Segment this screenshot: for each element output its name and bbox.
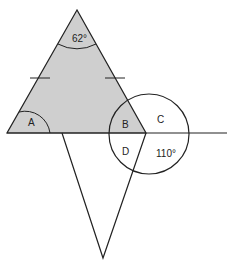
angle-circle — [109, 94, 189, 174]
angle-d-label: D — [122, 146, 129, 157]
angle-a-label: A — [28, 117, 35, 128]
angle-b-label: B — [122, 119, 129, 130]
geometry-diagram: 62° A B C D 110° — [0, 0, 231, 267]
lower-triangle — [62, 133, 146, 258]
angle-c-label: C — [157, 114, 164, 125]
apex-angle-label: 62° — [72, 33, 87, 44]
upper-triangle — [7, 10, 146, 133]
angle-110-label: 110° — [156, 148, 176, 159]
